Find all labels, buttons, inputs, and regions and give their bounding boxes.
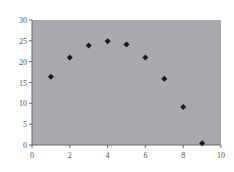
y-tick-label: 20 [19, 58, 27, 67]
y-axis: 051015202530 [19, 16, 32, 150]
y-tick-label: 5 [23, 120, 27, 129]
y-tick-label: 0 [23, 141, 27, 150]
x-tick-label: 6 [143, 151, 147, 160]
y-tick-label: 30 [19, 16, 27, 25]
x-tick-label: 0 [30, 151, 34, 160]
x-axis: 0246810 [30, 145, 225, 160]
x-tick-label: 2 [68, 151, 72, 160]
scatter-chart: 051015202530 0246810 [0, 0, 234, 172]
y-tick-label: 25 [19, 37, 27, 46]
x-tick-label: 10 [217, 151, 225, 160]
y-tick-label: 15 [19, 79, 27, 88]
plot-area [32, 20, 221, 145]
x-tick-label: 4 [106, 151, 110, 160]
x-tick-label: 8 [181, 151, 185, 160]
y-tick-label: 10 [19, 99, 27, 108]
